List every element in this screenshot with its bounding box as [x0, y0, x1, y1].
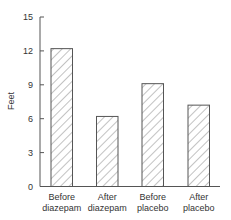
- bar: [188, 105, 210, 186]
- x-category-label: Before: [48, 192, 75, 202]
- x-category-label: placebo: [183, 203, 215, 213]
- y-tick-label: 6: [28, 114, 33, 124]
- x-category-label: After: [189, 192, 208, 202]
- bars: [51, 49, 210, 187]
- x-category-label: After: [98, 192, 117, 202]
- y-tick-label: 15: [23, 12, 33, 22]
- y-tick-label: 0: [28, 182, 33, 192]
- x-category-label: placebo: [137, 203, 169, 213]
- y-tick-label: 9: [28, 80, 33, 90]
- y-tick-label: 3: [28, 148, 33, 158]
- bar: [51, 49, 73, 187]
- y-axis: 03691215: [23, 12, 44, 192]
- y-tick-label: 12: [23, 46, 33, 56]
- bar-chart: 03691215 BeforediazepamAfterdiazepamBefo…: [0, 0, 231, 220]
- x-category-label: Before: [139, 192, 166, 202]
- x-axis: BeforediazepamAfterdiazepamBeforeplacebo…: [40, 187, 220, 214]
- x-category-label: diazepam: [42, 203, 81, 213]
- bar: [142, 84, 164, 187]
- x-category-label: diazepam: [88, 203, 127, 213]
- y-axis-title: Feet: [6, 91, 16, 110]
- bar: [97, 116, 119, 186]
